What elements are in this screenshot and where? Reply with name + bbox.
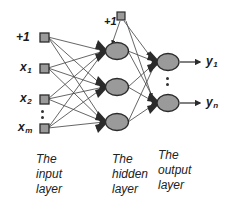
input-node-bias — [40, 33, 49, 42]
input-label-x2: x2 — [20, 92, 32, 106]
hidden-node-1 — [106, 43, 129, 60]
output-ellipsis — [166, 77, 169, 89]
ellipsis-dot — [166, 83, 169, 86]
hidden-bias-node — [117, 12, 125, 20]
neural-network-diagram: +1 x1 x2 xm +1 y1 yn The input layer The… — [0, 0, 235, 218]
output-node-1 — [157, 54, 179, 71]
edges-input-to-hidden — [48, 37, 104, 128]
output-label-yn: yn — [206, 96, 218, 110]
output-label-y1: y1 — [206, 55, 218, 69]
input-label-xm: xm — [18, 121, 32, 135]
ellipsis-dot — [166, 77, 169, 80]
input-node-xm — [40, 124, 49, 133]
input-label-x1: x1 — [20, 61, 32, 75]
caption-output-layer: The output layer — [158, 148, 191, 193]
caption-hidden-layer: The hidden layer — [112, 152, 148, 197]
input-node-x1 — [40, 64, 49, 73]
ellipsis-dot — [41, 110, 44, 113]
input-ellipsis — [41, 110, 44, 122]
input-label-bias: +1 — [16, 31, 30, 45]
hidden-bias-label: +1 — [104, 16, 117, 27]
hidden-node-3 — [106, 114, 129, 131]
hidden-node-2 — [106, 79, 129, 96]
hidden-layer-nodes — [106, 43, 129, 131]
ellipsis-dot — [41, 116, 44, 119]
input-node-x2 — [40, 95, 49, 104]
output-node-n — [157, 95, 179, 112]
caption-input-layer: The input layer — [36, 152, 62, 197]
output-arrows — [180, 62, 200, 103]
